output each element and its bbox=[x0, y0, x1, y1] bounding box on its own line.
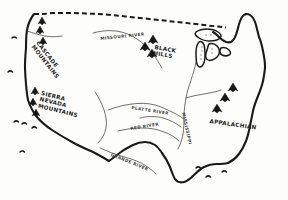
ohio-river-line bbox=[186, 90, 221, 98]
california-coastline bbox=[28, 100, 109, 161]
lake-michigan-outline bbox=[196, 42, 205, 67]
black-hills-mountain-glyphs bbox=[140, 35, 158, 58]
sierra-nevada-mountain-glyphs bbox=[29, 87, 40, 117]
atlantic-southeast-coastline bbox=[253, 37, 265, 111]
columbia-river-line bbox=[27, 31, 62, 37]
pacific-northwest-coastline bbox=[25, 14, 34, 100]
lake-huron-erie-outline bbox=[206, 44, 220, 61]
appalachian-mountain-glyphs bbox=[212, 83, 238, 113]
florida-peninsula-coastline bbox=[228, 111, 253, 163]
texas-gulf-coastline bbox=[162, 153, 228, 182]
arkansas-river-line bbox=[140, 117, 181, 128]
sketch-map-canvas: CASCADE MOUNTAINS SIERRA NEVADA MOUNTAIN… bbox=[0, 0, 288, 200]
canada-border-dashed-line bbox=[34, 13, 226, 28]
colorado-river-line bbox=[95, 92, 106, 143]
southwest-mexico-border bbox=[109, 142, 162, 161]
map-illustration bbox=[0, 0, 288, 200]
lake-ontario-outline bbox=[220, 48, 231, 56]
lake-shading-ticks bbox=[200, 35, 213, 59]
red-river-line bbox=[118, 128, 179, 141]
cascade-mountain-glyphs bbox=[36, 17, 47, 45]
mississippi-river-line bbox=[178, 62, 196, 149]
